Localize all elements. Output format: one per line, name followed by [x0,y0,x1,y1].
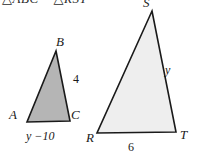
vertex-label-t: T [180,128,187,141]
triangle-abc-shape [27,51,70,122]
geometry-figure: △ABC ~ △RST B C A 4 y −10 S T R y 6 [0,0,197,159]
side-label-rt: 6 [128,141,134,153]
vertex-label-r: R [86,131,94,144]
side-label-ac: y −10 [26,130,54,142]
side-label-st: y [165,64,170,76]
vertex-label-s: S [143,0,150,9]
vertex-label-c: C [71,108,80,121]
vertex-label-a: A [9,108,17,121]
vertex-label-b: B [56,35,64,48]
side-label-bc: 4 [73,73,79,85]
